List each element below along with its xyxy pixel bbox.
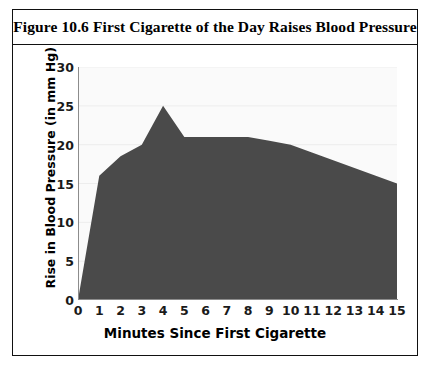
y-axis-line	[78, 67, 79, 300]
area-chart-svg	[78, 67, 397, 300]
x-axis-title: Minutes Since First Cigarette	[12, 325, 418, 341]
plot-region	[78, 67, 397, 300]
y-axis-tick-label: 10	[48, 215, 74, 230]
chart-area: Rise in Blood Pressure (in mm Hg) 051015…	[12, 45, 418, 356]
y-axis-tick-label: 25	[48, 98, 74, 113]
y-axis-tick-label: 30	[48, 60, 74, 75]
x-axis-tick-label: 15	[382, 303, 412, 318]
y-axis-tick-label: 5	[48, 254, 74, 269]
data-area-series	[78, 106, 397, 300]
figure-title: Figure 10.6 First Cigarette of the Day R…	[13, 18, 417, 36]
y-axis-tick-label: 20	[48, 137, 74, 152]
x-axis-line	[78, 299, 398, 300]
figure-container: Figure 10.6 First Cigarette of the Day R…	[0, 0, 435, 367]
y-axis-tick-label: 15	[48, 176, 74, 191]
y-axis-ticks: 051015202530	[42, 67, 74, 300]
x-axis-ticks: 0123456789101112131415	[78, 303, 397, 323]
figure-title-bar: Figure 10.6 First Cigarette of the Day R…	[12, 9, 418, 45]
